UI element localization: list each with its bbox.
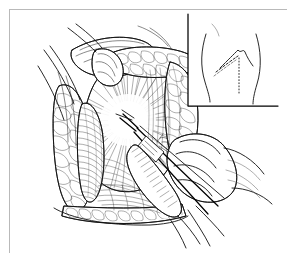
orientation-inset-diagram (188, 10, 288, 106)
surgical-illustration (10, 10, 288, 254)
figure-root: Surgical technique line illustration ope… (0, 0, 298, 264)
inset-background (188, 10, 288, 106)
picture-frame-border: Surgical technique line illustration ope… (9, 9, 287, 253)
